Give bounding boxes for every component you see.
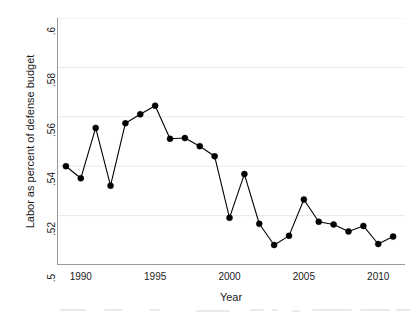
scan-speckle	[60, 309, 86, 311]
data-point	[63, 163, 69, 169]
data-point	[316, 219, 322, 225]
scan-speckle	[150, 309, 160, 311]
data-point	[108, 183, 114, 189]
x-tick-label: 2010	[358, 271, 398, 283]
data-point	[197, 143, 203, 149]
data-point	[375, 241, 381, 247]
y-axis-tick-labels: .5.52.54.56.58.6	[30, 0, 52, 316]
scan-speckle	[272, 309, 278, 311]
chart-canvas	[57, 18, 405, 265]
scan-speckle	[250, 309, 264, 311]
data-point	[360, 223, 366, 229]
data-point	[137, 111, 143, 117]
scan-artifact	[0, 304, 415, 316]
data-point	[331, 221, 337, 227]
scan-speckle	[360, 309, 390, 311]
tick-marks	[57, 18, 378, 265]
plot-area	[57, 18, 405, 265]
data-point	[122, 120, 128, 126]
data-point	[271, 242, 277, 248]
axis-lines	[57, 18, 405, 265]
data-point	[390, 234, 396, 240]
data-point	[301, 197, 307, 203]
data-point	[227, 215, 233, 221]
scan-speckle	[292, 310, 300, 312]
data-point	[167, 136, 173, 142]
scan-speckle	[396, 309, 410, 311]
chart-figure: Labor as percent of defense budget .5.52…	[0, 0, 415, 316]
data-point	[152, 103, 158, 109]
gridlines	[57, 18, 405, 265]
data-point	[286, 233, 292, 239]
data-point	[78, 175, 84, 181]
data-point	[93, 125, 99, 131]
data-point	[241, 171, 247, 177]
data-point	[345, 228, 351, 234]
y-tick-label: .5	[46, 265, 58, 291]
data-point	[256, 221, 262, 227]
scan-speckle	[312, 309, 352, 311]
scan-speckle	[196, 310, 230, 312]
x-tick-label: 2005	[284, 271, 324, 283]
series-line	[66, 106, 393, 245]
scan-speckle	[104, 309, 122, 311]
x-tick-label: 2000	[210, 271, 250, 283]
data-point	[182, 135, 188, 141]
x-tick-label: 1995	[135, 271, 175, 283]
x-tick-label: 1990	[61, 271, 101, 283]
x-axis-title: Year	[57, 290, 405, 304]
data-point	[212, 153, 218, 159]
